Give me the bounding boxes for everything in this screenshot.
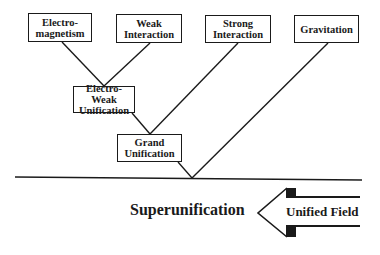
superunification-baseline [15,177,362,180]
arrow-head-outline [258,188,287,237]
line-electroweak-to-grand [132,113,150,134]
box-electromagnetism: Electro- magnetism [28,13,92,42]
unified-field-label: Unified Field [286,204,359,220]
box-weak-interaction: Weak Interaction [116,14,182,43]
line-grand-to-super [178,162,192,178]
arrow-notch-bottom [286,225,296,237]
line-strong-to-grand [150,43,238,134]
box-gravitation: Gravitation [294,15,359,43]
box-grand-unification: Grand Unification [117,134,182,162]
superunification-label: Superunification [130,201,245,219]
box-electroweak-unification: Electro-Weak Unification [73,86,135,113]
arrow-notch-top [286,188,296,198]
line-em-to-electroweak [62,42,104,86]
box-strong-interaction: Strong Interaction [205,15,271,43]
line-weak-to-electroweak [104,43,150,86]
line-gravity-to-super [192,43,328,178]
